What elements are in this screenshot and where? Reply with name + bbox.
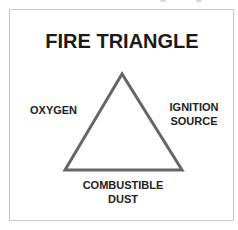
- label-ignition-line1: IGNITION: [163, 100, 225, 114]
- label-combustible-line1: COMBUSTIBLE: [82, 178, 164, 192]
- label-oxygen-text: OXYGEN: [30, 104, 77, 116]
- label-combustible-line2: DUST: [82, 192, 164, 206]
- label-oxygen: OXYGEN: [30, 103, 77, 117]
- label-ignition-source: IGNITION SOURCE: [163, 100, 225, 128]
- label-ignition-line2: SOURCE: [163, 114, 225, 128]
- label-combustible-dust: COMBUSTIBLE DUST: [82, 178, 164, 206]
